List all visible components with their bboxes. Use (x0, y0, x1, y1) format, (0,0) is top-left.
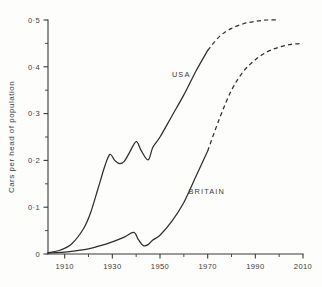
x-tick-label: 1950 (151, 262, 169, 271)
cars-per-head-line-chart: 00·10·20·30·40·5 19101930195019701990201… (0, 0, 322, 287)
series-line-dashed-usa (208, 20, 280, 51)
series-line-solid-usa (48, 50, 208, 252)
x-tick-label: 1990 (246, 262, 264, 271)
series-label-britain: BRITAIN (189, 187, 225, 196)
chart-page: 00·10·20·30·40·5 19101930195019701990201… (0, 0, 322, 287)
series-line-dashed-britain (208, 43, 303, 151)
axes-group (48, 20, 303, 254)
y-tick-label: 0·4 (28, 63, 40, 72)
x-tick-label: 1970 (199, 262, 217, 271)
x-tick-label: 2010 (294, 262, 312, 271)
y-tick-label: 0 (35, 250, 40, 259)
series-usa (48, 20, 279, 253)
y-tick-label: 0·1 (28, 203, 40, 212)
y-tick-label: 0·3 (28, 109, 40, 118)
series-label-usa: USA (172, 70, 191, 79)
y-axis-title: Cars per head of population (7, 81, 16, 193)
y-axis-ticks: 00·10·20·30·40·5 (28, 16, 48, 259)
series-line-solid-britain (48, 151, 208, 253)
x-tick-label: 1910 (56, 262, 74, 271)
x-tick-label: 1930 (103, 262, 121, 271)
series-annotations: USABRITAIN (172, 70, 225, 196)
y-tick-label: 0·2 (28, 156, 40, 165)
y-axis-title-group: Cars per head of population (7, 81, 16, 193)
y-tick-label: 0·5 (28, 16, 40, 25)
series-lines (48, 20, 303, 253)
